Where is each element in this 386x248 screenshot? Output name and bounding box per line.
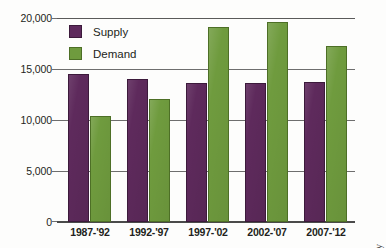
y-axis-tick-label: 0 [0, 216, 52, 228]
legend-label: Demand [93, 48, 136, 60]
y-axis-tick-label: 10,000 [0, 114, 52, 126]
legend-swatch-icon [69, 47, 82, 60]
bar-demand[interactable] [208, 27, 229, 222]
y-axis-labels: 20,000 15,000 10,000 5,000 0 [0, 0, 52, 248]
y-axis-tick-label: 20,000 [0, 12, 52, 24]
bar-supply[interactable] [245, 83, 266, 222]
bar-supply[interactable] [127, 79, 148, 222]
legend-item-demand[interactable]: Demand [69, 44, 179, 63]
copyright-credit: © Kendall Hunt Publishing Company [369, 0, 385, 248]
legend-swatch-icon [69, 25, 82, 38]
bar-supply[interactable] [304, 82, 325, 222]
bar-demand[interactable] [149, 99, 170, 222]
bar-demand[interactable] [267, 22, 288, 222]
bar-supply[interactable] [186, 83, 207, 222]
x-axis-tick-label: 1992-'97 [129, 226, 168, 238]
bar-demand[interactable] [326, 46, 347, 222]
x-axis-tick-label: 1997-'02 [188, 226, 227, 238]
legend-item-supply[interactable]: Supply [69, 22, 179, 41]
bar-chart: 20,000 15,000 10,000 5,000 0 [0, 0, 386, 248]
x-axis-labels: 1987-'92 1992-'97 1997-'02 2002-'07 2007… [57, 226, 355, 246]
y-axis-tick-label: 5,000 [0, 165, 52, 177]
chart-legend: Supply Demand [69, 22, 179, 66]
legend-label: Supply [93, 26, 128, 38]
x-axis-tick-label: 2007-'12 [306, 226, 345, 238]
copyright-text: © Kendall Hunt Publishing Company [373, 244, 384, 248]
bar-supply[interactable] [68, 74, 89, 222]
y-axis-tick-label: 15,000 [0, 63, 52, 75]
bar-demand[interactable] [90, 116, 111, 222]
x-axis-tick-label: 2002-'07 [247, 226, 286, 238]
x-axis-tick-label: 1987-'92 [70, 226, 109, 238]
